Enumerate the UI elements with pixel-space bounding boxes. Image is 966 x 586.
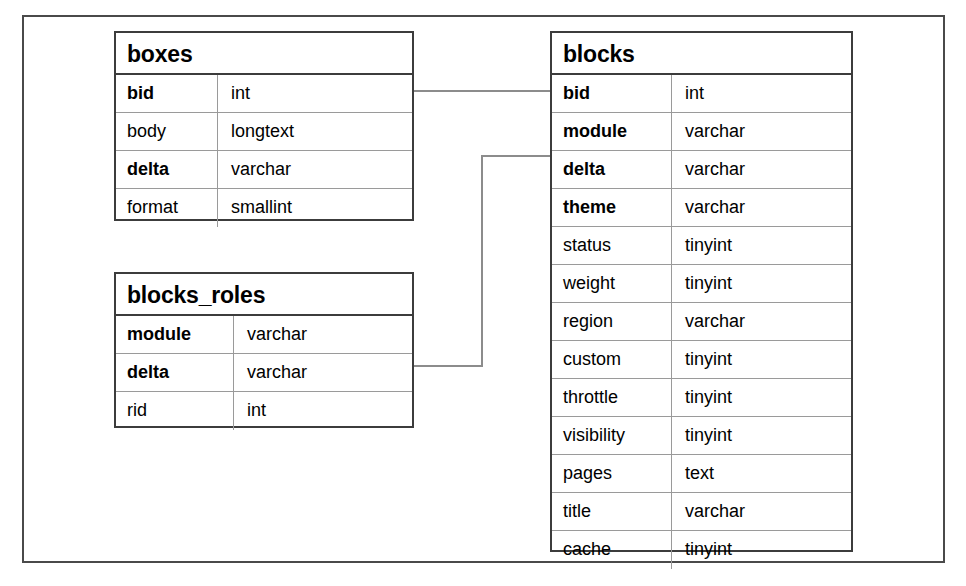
field-type: varchar bbox=[672, 189, 851, 226]
field-type: varchar bbox=[234, 354, 412, 391]
field-type: varchar bbox=[672, 493, 851, 530]
field-name: body bbox=[116, 113, 218, 150]
entity-field-row: custom tinyint bbox=[552, 341, 851, 379]
field-name: cache bbox=[552, 531, 672, 569]
field-type: longtext bbox=[218, 113, 412, 150]
entity-field-row: theme varchar bbox=[552, 189, 851, 227]
field-name: theme bbox=[552, 189, 672, 226]
field-name: throttle bbox=[552, 379, 672, 416]
entity-field-row: weight tinyint bbox=[552, 265, 851, 303]
field-type: text bbox=[672, 455, 851, 492]
entity-field-row: bid int bbox=[116, 75, 412, 113]
field-type: int bbox=[234, 392, 412, 430]
entity-field-row: bid int bbox=[552, 75, 851, 113]
field-type: varchar bbox=[234, 316, 412, 353]
field-name: region bbox=[552, 303, 672, 340]
entity-field-row: rid int bbox=[116, 392, 412, 430]
field-name: format bbox=[116, 189, 218, 227]
entity-field-list-boxes: bid int body longtext delta varchar form… bbox=[116, 75, 412, 227]
entity-table-boxes[interactable]: boxes bid int body longtext delta varcha… bbox=[114, 31, 414, 221]
entity-field-row: visibility tinyint bbox=[552, 417, 851, 455]
field-type: tinyint bbox=[672, 379, 851, 416]
entity-field-row: delta varchar bbox=[116, 354, 412, 392]
entity-table-blocks[interactable]: blocks bid int module varchar delta varc… bbox=[550, 31, 853, 552]
entity-title-blocks-roles: blocks_roles bbox=[116, 274, 412, 316]
field-name: bid bbox=[552, 75, 672, 112]
field-type: varchar bbox=[672, 303, 851, 340]
entity-field-row: module varchar bbox=[116, 316, 412, 354]
field-type: int bbox=[672, 75, 851, 112]
field-name: bid bbox=[116, 75, 218, 112]
field-type: varchar bbox=[218, 151, 412, 188]
field-type: tinyint bbox=[672, 417, 851, 454]
entity-title-boxes: boxes bbox=[116, 33, 412, 75]
field-name: pages bbox=[552, 455, 672, 492]
field-type: smallint bbox=[218, 189, 412, 227]
field-name: delta bbox=[116, 354, 234, 391]
entity-field-row: region varchar bbox=[552, 303, 851, 341]
entity-field-row: pages text bbox=[552, 455, 851, 493]
field-name: visibility bbox=[552, 417, 672, 454]
entity-title-blocks: blocks bbox=[552, 33, 851, 75]
entity-field-row: throttle tinyint bbox=[552, 379, 851, 417]
entity-field-list-blocks: bid int module varchar delta varchar the… bbox=[552, 75, 851, 569]
entity-field-row: status tinyint bbox=[552, 227, 851, 265]
entity-field-row: title varchar bbox=[552, 493, 851, 531]
entity-field-row: cache tinyint bbox=[552, 531, 851, 569]
field-name: custom bbox=[552, 341, 672, 378]
entity-field-row: module varchar bbox=[552, 113, 851, 151]
field-type: tinyint bbox=[672, 265, 851, 302]
entity-field-row: delta varchar bbox=[552, 151, 851, 189]
field-name: title bbox=[552, 493, 672, 530]
entity-field-list-blocks-roles: module varchar delta varchar rid int bbox=[116, 316, 412, 430]
entity-field-row: delta varchar bbox=[116, 151, 412, 189]
field-name: delta bbox=[116, 151, 218, 188]
er-diagram-canvas: boxes bid int body longtext delta varcha… bbox=[0, 0, 966, 586]
field-type: tinyint bbox=[672, 227, 851, 264]
field-name: status bbox=[552, 227, 672, 264]
field-name: module bbox=[552, 113, 672, 150]
field-name: rid bbox=[116, 392, 234, 430]
field-name: weight bbox=[552, 265, 672, 302]
entity-field-row: format smallint bbox=[116, 189, 412, 227]
field-type: varchar bbox=[672, 151, 851, 188]
field-type: int bbox=[218, 75, 412, 112]
field-type: tinyint bbox=[672, 341, 851, 378]
field-name: delta bbox=[552, 151, 672, 188]
field-type: varchar bbox=[672, 113, 851, 150]
field-name: module bbox=[116, 316, 234, 353]
field-type: tinyint bbox=[672, 531, 851, 569]
entity-field-row: body longtext bbox=[116, 113, 412, 151]
entity-table-blocks-roles[interactable]: blocks_roles module varchar delta varcha… bbox=[114, 272, 414, 428]
